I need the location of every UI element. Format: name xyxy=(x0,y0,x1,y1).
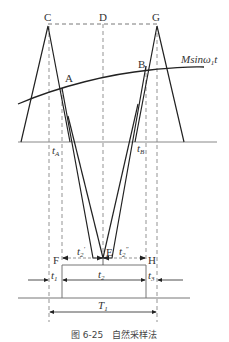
left-triangle-carrier xyxy=(21,26,70,142)
point-c-label: C xyxy=(44,11,51,23)
point-g-label: G xyxy=(152,11,160,23)
point-a-label: A xyxy=(65,72,73,84)
point-h-label: H xyxy=(148,254,156,266)
natural-sampling-diagram: C D G A B E F H Msinω1t tA tB t2′ t2″ t1… xyxy=(0,0,229,342)
point-b-label: B xyxy=(138,58,145,70)
t2-double-prime-label: t2″ xyxy=(119,245,129,259)
t2-label: t2 xyxy=(98,268,105,282)
T1-label: T1 xyxy=(98,299,108,313)
point-d-label: D xyxy=(99,11,107,23)
point-e-label: E xyxy=(106,246,113,258)
curve-label: Msinω1t xyxy=(180,53,218,67)
tb-label: tB xyxy=(137,142,145,156)
t2-prime-label: t2′ xyxy=(77,245,86,259)
t1-label: t1 xyxy=(51,269,58,283)
inverted-triangle-carrier xyxy=(62,66,146,258)
modulating-wave-curve xyxy=(18,67,204,104)
figure-caption: 图 6-25 自然采样法 xyxy=(71,329,157,340)
point-f-label: F xyxy=(53,254,59,266)
t3-label: t3 xyxy=(148,269,155,283)
ta-label: tA xyxy=(52,144,60,158)
